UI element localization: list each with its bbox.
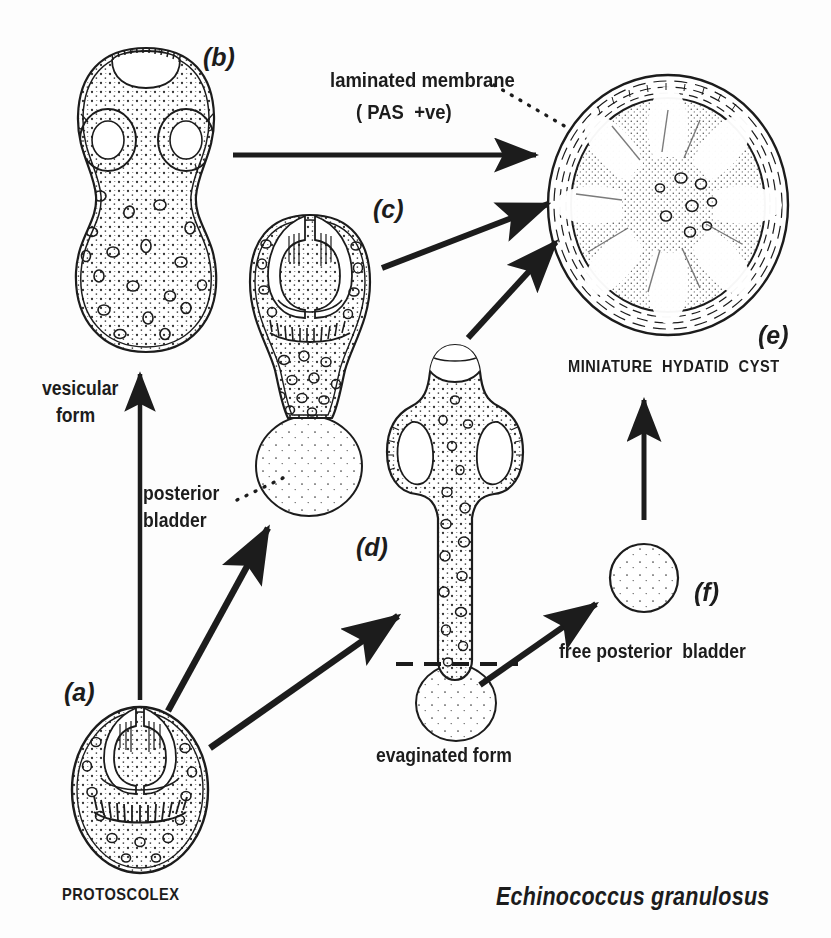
figure-canvas: (b) <box>0 0 831 938</box>
stage-d-evaginated-form-drawing <box>385 328 525 741</box>
stage-f-free-bladder-drawing <box>610 544 678 612</box>
label-evaginated-form: evaginated form <box>376 744 512 768</box>
stage-b-vesicular-form-drawing <box>75 38 219 352</box>
label-pas-positive: ( PAS +ve) <box>356 100 452 125</box>
label-vesicular-form-line2: form <box>56 404 95 428</box>
stage-letter-e: (e) <box>758 321 789 349</box>
label-posterior-bladder-line2: bladder <box>143 509 207 533</box>
stage-c-posterior-bladder-drawing <box>250 215 370 516</box>
label-free-posterior-bladder: free posterior bladder <box>559 640 746 664</box>
species-name: Echinococcus granulosus <box>496 882 770 911</box>
label-laminated-membrane: laminated membrane <box>330 68 515 93</box>
arrow-d-to-e <box>468 242 556 338</box>
label-protoscolex: PROTOSCOLEX <box>62 885 180 905</box>
stage-letter-f: (f) <box>694 578 719 606</box>
stage-letter-c: (c) <box>373 195 404 223</box>
stage-a-protoscolex-drawing <box>72 707 208 873</box>
stage-e-hydatid-cyst-drawing <box>548 75 788 335</box>
diagram-artwork: (b) <box>0 0 831 938</box>
stage-letter-d: (d) <box>356 533 388 561</box>
arrow-a-to-c <box>168 528 268 711</box>
stage-letter-a: (a) <box>64 678 95 706</box>
label-vesicular-form-line1: vesicular <box>42 377 118 401</box>
stage-letter-b: (b) <box>203 43 235 71</box>
label-miniature-hydatid-cyst: MINIATURE HYDATID CYST <box>568 357 780 377</box>
label-posterior-bladder-line1: posterior <box>143 482 219 506</box>
arrow-c-to-e <box>382 204 548 268</box>
arrow-a-to-d <box>210 616 398 748</box>
